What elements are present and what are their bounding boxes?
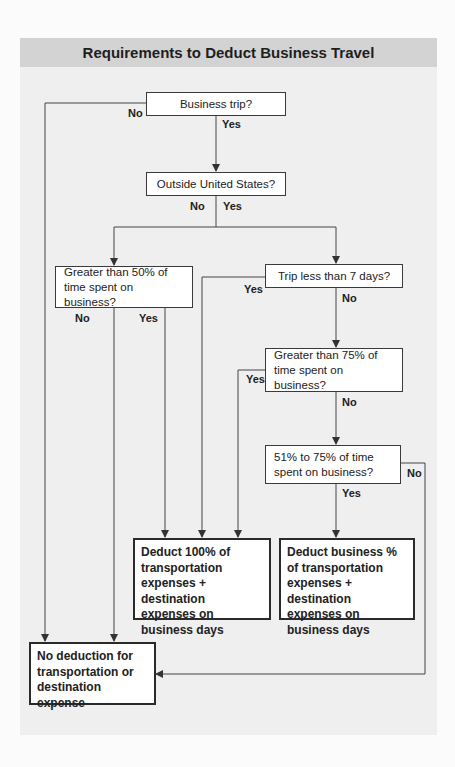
result-deduct-100: Deduct 100% of transportation expenses +… [133,538,271,620]
result-no-deduction: No deduction for transportation or desti… [29,642,156,705]
label-outside-us-no: No [190,200,205,212]
node-business-trip: Business trip? [146,92,286,116]
node-trip-less-7: Trip less than 7 days? [265,264,403,288]
label-greater-75-no: No [342,396,357,408]
node-greater-50: Greater than 50% of time spent on busine… [55,266,193,308]
label-outside-us-yes: Yes [223,200,242,212]
label-51-75-yes: Yes [342,487,361,499]
label-greater-50-no: No [75,312,90,324]
label-greater-75-yes: Yes [246,373,265,385]
label-business-trip-yes: Yes [222,118,241,130]
label-greater-50-yes: Yes [139,312,158,324]
label-trip-less-7-yes: Yes [244,283,263,295]
label-51-75-no: No [407,467,422,479]
node-51-to-75: 51% to 75% of time spent on business? [265,445,401,484]
node-greater-75: Greater than 75% of time spent on busine… [265,348,403,392]
label-trip-less-7-no: No [342,292,357,304]
node-outside-us: Outside United States? [146,172,286,196]
result-deduct-business-pct: Deduct business % of transportation expe… [279,538,415,620]
label-business-trip-no: No [128,107,143,119]
